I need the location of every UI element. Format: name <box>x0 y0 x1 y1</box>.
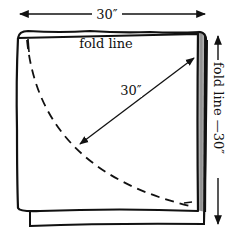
fold-edge-inner-line <box>204 36 205 224</box>
corner-tick-bottom-right <box>184 202 192 203</box>
folded-square-diagram: 30″ fold line 30″ fold line —30″ <box>0 0 233 244</box>
front-layer-outline <box>17 31 206 212</box>
top-dimension-label: 30″ <box>96 7 118 22</box>
right-fold-line-label: fold line —30″ <box>211 62 226 154</box>
fold-line-top-label: fold line <box>79 36 133 51</box>
radius-label: 30″ <box>120 83 142 98</box>
radius-arrow <box>80 58 194 144</box>
